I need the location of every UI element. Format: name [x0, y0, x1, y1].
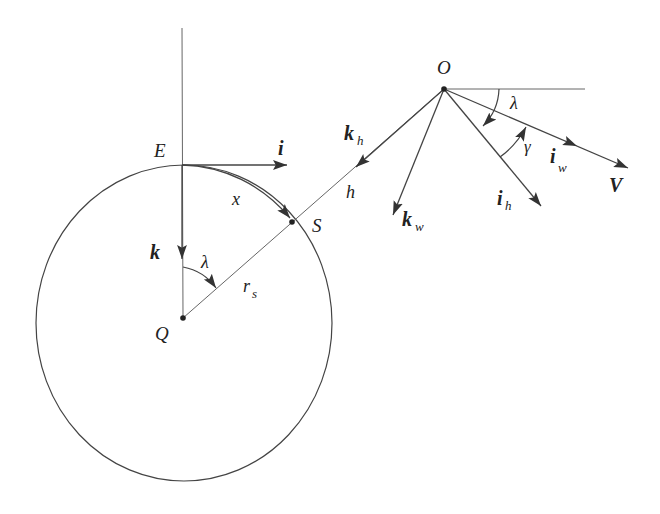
- label-iw-subscript: w: [558, 160, 567, 175]
- lambda-angle-arc-top: [483, 89, 499, 126]
- geometry-diagram: O E i x S h k λ r s Q k h k w λ γ i h i …: [0, 0, 660, 514]
- lambda-angle-arc-center: [183, 267, 216, 288]
- label-gamma: γ: [524, 137, 532, 156]
- label-h: h: [346, 182, 355, 202]
- label-s: S: [312, 215, 322, 236]
- label-v: V: [609, 174, 624, 196]
- diagram-canvas: O E i x S h k λ r s Q k h k w λ γ i h i …: [0, 0, 660, 514]
- label-lambda-center: λ: [200, 252, 209, 272]
- label-ih-subscript: h: [505, 198, 512, 213]
- label-kw: k: [402, 208, 412, 230]
- label-i: i: [278, 137, 284, 159]
- kh-vector-arrow: [356, 89, 444, 167]
- label-o: O: [437, 57, 451, 78]
- label-q: Q: [155, 323, 169, 344]
- label-kh-subscript: h: [357, 133, 364, 148]
- gamma-angle-arc: [500, 127, 526, 157]
- v-vector-arrow: [444, 89, 628, 168]
- label-k: k: [150, 241, 160, 263]
- label-kh: k: [344, 122, 354, 144]
- point-o: [441, 86, 447, 92]
- label-r-subscript: s: [252, 286, 257, 301]
- point-q: [180, 315, 186, 321]
- label-ih: i: [497, 187, 503, 209]
- label-r: r: [243, 276, 251, 296]
- label-x: x: [231, 189, 240, 209]
- kw-vector-arrow: [393, 89, 444, 215]
- earth-circle: [36, 165, 332, 481]
- point-s: [289, 219, 295, 225]
- label-e: E: [153, 140, 166, 161]
- label-kw-subscript: w: [415, 219, 424, 234]
- label-iw: i: [550, 145, 556, 167]
- label-lambda-top: λ: [509, 93, 518, 113]
